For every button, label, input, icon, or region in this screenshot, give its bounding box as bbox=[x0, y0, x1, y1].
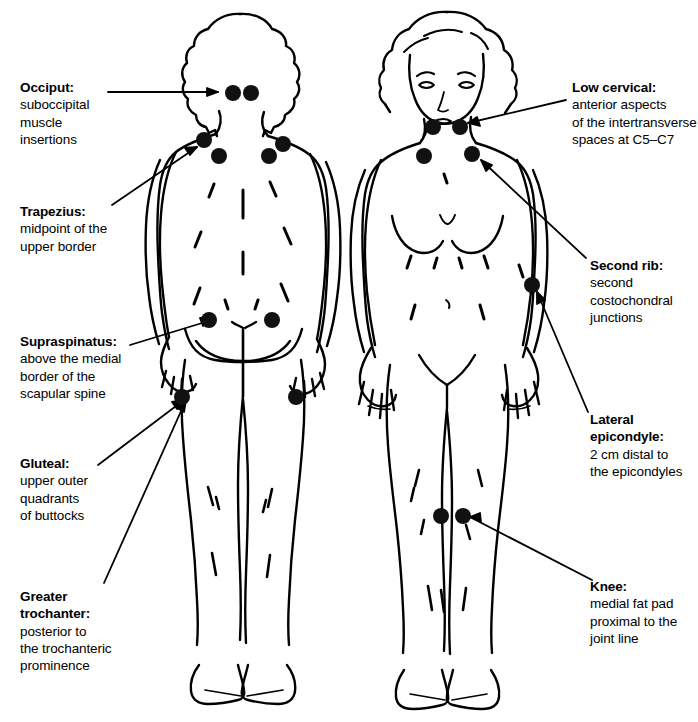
tender-point-second-rib-left bbox=[416, 148, 432, 164]
label-knee-line-1: medial fat pad bbox=[590, 595, 677, 612]
tender-point-low-cervical-right bbox=[452, 119, 468, 135]
label-supraspinatus-line-2: border of the bbox=[20, 368, 121, 385]
tender-point-knee-left bbox=[433, 508, 449, 524]
label-supraspinatus-line-1: above the medial bbox=[20, 350, 121, 367]
label-lateral-epicondyle-heading-2: epicondyle: bbox=[590, 428, 682, 445]
label-second-rib-line-3: junctions bbox=[590, 309, 673, 326]
label-second-rib: Second rib: second costochondral junctio… bbox=[590, 257, 673, 326]
label-knee-heading: Knee: bbox=[590, 578, 677, 595]
tender-point-occiput-right bbox=[243, 85, 259, 101]
tender-point-low-cervical-left bbox=[425, 119, 441, 135]
label-gluteal: Gluteal: upper outer quadrants of buttoc… bbox=[20, 455, 88, 524]
label-low-cervical-line-2: of the intertransverse bbox=[572, 114, 697, 131]
label-greater-trochanter-line-1: posterior to bbox=[20, 623, 111, 640]
label-low-cervical-line-1: anterior aspects bbox=[572, 96, 697, 113]
label-second-rib-line-1: second bbox=[590, 274, 673, 291]
label-trapezius: Trapezius: midpoint of the upper border bbox=[20, 203, 107, 255]
label-low-cervical-heading: Low cervical: bbox=[572, 79, 697, 96]
label-gluteal-line-1: upper outer bbox=[20, 472, 88, 489]
label-occiput-line-2: muscle bbox=[20, 114, 89, 131]
label-trapezius-heading: Trapezius: bbox=[20, 203, 107, 220]
label-occiput-line-1: suboccipital bbox=[20, 96, 89, 113]
label-knee: Knee: medial fat pad proximal to the joi… bbox=[590, 578, 677, 647]
label-second-rib-line-2: costochondral bbox=[590, 292, 673, 309]
label-occiput-heading: Occiput: bbox=[20, 79, 89, 96]
tender-point-greater-trochanter-left bbox=[174, 389, 190, 405]
label-greater-trochanter: Greater trochanter: posterior to the tro… bbox=[20, 588, 111, 674]
label-knee-line-3: joint line bbox=[590, 630, 677, 647]
tender-point-occiput-left bbox=[225, 85, 241, 101]
tender-point-second-rib-right bbox=[464, 146, 480, 162]
label-lateral-epicondyle-line-2: the epicondyles bbox=[590, 463, 682, 480]
tender-point-knee-right bbox=[455, 508, 471, 524]
label-greater-trochanter-heading: Greater bbox=[20, 588, 111, 605]
tender-point-supraspinatus-left bbox=[211, 148, 227, 164]
label-greater-trochanter-line-3: prominence bbox=[20, 657, 111, 674]
label-occiput-line-3: insertions bbox=[20, 131, 89, 148]
tender-point-lateral-epicondyle-right bbox=[524, 277, 540, 293]
label-lateral-epicondyle-line-1: 2 cm distal to bbox=[590, 446, 682, 463]
label-gluteal-heading: Gluteal: bbox=[20, 455, 88, 472]
label-greater-trochanter-heading-2: trochanter: bbox=[20, 605, 111, 622]
tender-point-greater-trochanter-right bbox=[288, 389, 304, 405]
posterior-figure-outline bbox=[146, 14, 341, 704]
label-lateral-epicondyle: Lateral epicondyle: 2 cm distal to the e… bbox=[590, 411, 682, 480]
label-low-cervical: Low cervical: anterior aspects of the in… bbox=[572, 79, 697, 148]
label-supraspinatus-line-3: scapular spine bbox=[20, 385, 121, 402]
label-occiput: Occiput: suboccipital muscle insertions bbox=[20, 79, 89, 148]
label-trapezius-line-1: midpoint of the bbox=[20, 220, 107, 237]
label-trapezius-line-2: upper border bbox=[20, 238, 107, 255]
label-gluteal-line-3: of buttocks bbox=[20, 507, 88, 524]
tender-point-diagram: Occiput: suboccipital muscle insertions … bbox=[0, 0, 698, 722]
tender-point-gluteal-right bbox=[264, 312, 280, 328]
label-gluteal-line-2: quadrants bbox=[20, 490, 88, 507]
tender-point-trapezius-right bbox=[275, 136, 291, 152]
anterior-figure-outline bbox=[351, 12, 548, 709]
tender-point-gluteal-left bbox=[201, 312, 217, 328]
label-lateral-epicondyle-heading: Lateral bbox=[590, 411, 682, 428]
tender-point-trapezius-left bbox=[196, 132, 212, 148]
label-low-cervical-line-3: spaces at C5–C7 bbox=[572, 131, 697, 148]
label-second-rib-heading: Second rib: bbox=[590, 257, 673, 274]
label-supraspinatus: Supraspinatus: above the medial border o… bbox=[20, 333, 121, 402]
label-supraspinatus-heading: Supraspinatus: bbox=[20, 333, 121, 350]
label-greater-trochanter-line-2: the trochanteric bbox=[20, 640, 111, 657]
label-knee-line-2: proximal to the bbox=[590, 613, 677, 630]
tender-point-supraspinatus-right bbox=[261, 148, 277, 164]
tender-point-dots bbox=[174, 85, 540, 524]
